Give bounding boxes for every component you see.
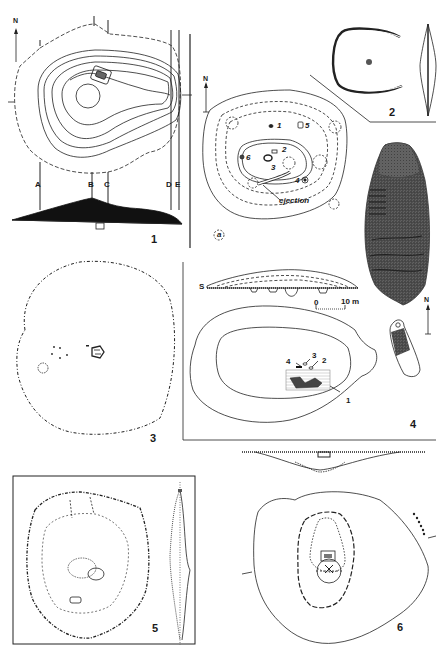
- section-label-b: B: [88, 180, 94, 189]
- panel-6-plan: [242, 492, 436, 644]
- archaeological-figure: N A B C D E 1 2 N 1 5 2 6 3 4 ejection a…: [0, 0, 445, 656]
- panel-4-plan: [190, 304, 431, 422]
- feature-label-6: 6: [246, 153, 250, 162]
- ejection-label: ejection: [279, 196, 309, 205]
- feature-label-2: 2: [282, 145, 286, 154]
- panel-5: [13, 476, 195, 645]
- section-label-e: E: [175, 180, 180, 189]
- panel-label-2: 2: [389, 106, 395, 118]
- section-label-d: D: [166, 180, 172, 189]
- panel-4-section: [207, 270, 358, 309]
- stele-drawing: [365, 143, 430, 305]
- north-label-2: N: [203, 75, 208, 82]
- panel-1-plan: [8, 16, 192, 248]
- p4-feature-label-3: 3: [312, 351, 316, 360]
- panel-label-6: 6: [397, 621, 403, 633]
- feature-label-5: 5: [305, 121, 309, 130]
- panel-label-5: 5: [152, 622, 158, 634]
- p4-feature-label-1: 1: [346, 396, 350, 405]
- section-label-s: S: [199, 282, 204, 291]
- panel-label-4: 4: [410, 418, 416, 430]
- feature-label-3: 3: [271, 163, 275, 172]
- legend-label-a: a: [217, 230, 221, 239]
- scale-start: 0: [314, 298, 318, 307]
- panel-label-3: 3: [150, 432, 156, 444]
- panel-6-section: [242, 452, 425, 472]
- panel-label-1: 1: [151, 233, 157, 245]
- panel-3-plan: [17, 261, 175, 434]
- section-label-a: A: [35, 180, 41, 189]
- p4-feature-label-2: 2: [322, 356, 326, 365]
- scale-end: 10 m: [341, 297, 359, 306]
- feature-label-1: 1: [277, 121, 281, 130]
- panel-features-plan: [203, 82, 347, 240]
- feature-label-4: 4: [295, 176, 299, 185]
- figure-drawings: [0, 0, 445, 656]
- north-label-4: N: [424, 296, 429, 303]
- north-label-1: N: [13, 17, 18, 24]
- p4-feature-label-4: 4: [286, 357, 290, 366]
- section-label-c: C: [104, 180, 110, 189]
- panel-2-plan: [310, 24, 436, 122]
